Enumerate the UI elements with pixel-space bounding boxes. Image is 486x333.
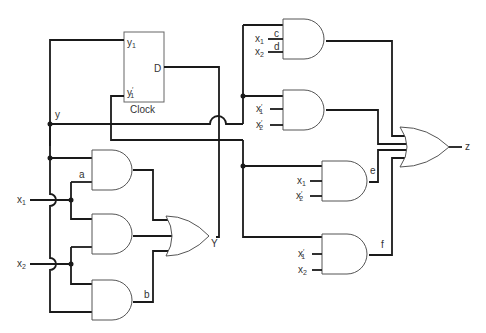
logic-circuit-diagram: y1 D y′1 Clock: [0, 0, 486, 333]
gate-e-x1: x1: [297, 175, 306, 187]
input-x2: x2: [17, 258, 26, 270]
gate-f-x2: x2: [298, 264, 307, 276]
label-y: y: [55, 109, 60, 120]
or-gate-z: [400, 127, 449, 167]
right-input-stubs: [268, 39, 322, 270]
gate2-x2p: x′2: [256, 119, 263, 131]
and-gate-b: [92, 280, 132, 320]
input-x1: x1: [17, 194, 26, 206]
and-gate-f: [322, 234, 367, 274]
and-gate-cd: [283, 19, 324, 59]
label-b: b: [144, 289, 150, 300]
gate-cd-x2: x2: [255, 46, 264, 58]
label-d: d: [274, 41, 280, 52]
ff-qn-label: y′1: [127, 86, 134, 99]
gate-e-x2p: x′2: [296, 190, 303, 202]
label-c: c: [274, 28, 279, 39]
and-gate-mid: [92, 214, 132, 254]
gate-cd-x1: x1: [255, 33, 264, 45]
label-e: e: [370, 165, 376, 176]
label-Y: Y: [211, 238, 218, 249]
ff-clock-label: Clock: [130, 104, 156, 115]
gate-f-x1p: x′1: [298, 248, 305, 260]
label-a: a: [79, 169, 85, 180]
gate2-x1p: x′1: [256, 103, 263, 115]
label-z: z: [465, 141, 470, 152]
or-gate-Y: [166, 216, 209, 256]
and-gate-a: [92, 150, 132, 190]
and-gate-e: [322, 161, 367, 201]
flip-flop: y1 D y′1 Clock: [124, 32, 164, 115]
label-f: f: [381, 239, 384, 250]
and-gate-2: [283, 90, 324, 130]
ff-d-label: D: [154, 63, 161, 74]
